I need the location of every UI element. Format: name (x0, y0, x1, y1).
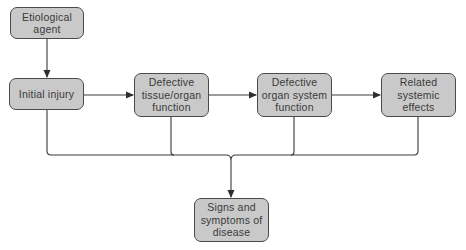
bracket-right (236, 117, 418, 155)
bracket-inner-left (171, 116, 174, 155)
node-defective-tissue-organ-function: Defective tissue/organ function (134, 73, 209, 117)
node-label: Defective tissue/organ function (142, 76, 202, 114)
flowchart-diagram: Etiological agent Initial injury Defecti… (0, 0, 466, 250)
node-label: Defective organ system function (262, 76, 327, 114)
node-signs-and-symptoms: Signs and symptoms of disease (194, 198, 269, 242)
node-label: Signs and symptoms of disease (201, 201, 263, 239)
bracket-center (226, 155, 236, 160)
node-label: Etiological agent (22, 11, 72, 36)
node-label: Related systemic effects (397, 76, 439, 114)
node-label: Initial injury (19, 88, 74, 101)
bracket-inner-right (291, 116, 294, 155)
node-etiological-agent: Etiological agent (10, 7, 84, 39)
node-related-systemic-effects: Related systemic effects (381, 73, 456, 117)
node-initial-injury: Initial injury (9, 78, 84, 110)
node-defective-organ-system-function: Defective organ system function (257, 73, 332, 117)
